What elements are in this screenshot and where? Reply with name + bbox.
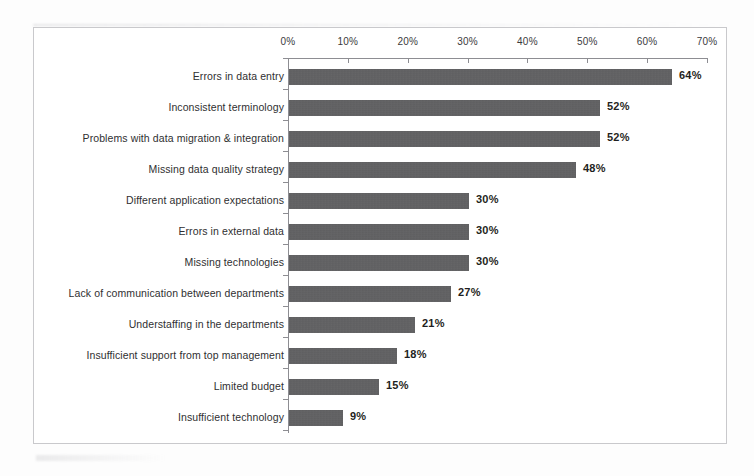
x-axis-tick-label: 40%	[517, 36, 538, 47]
bar	[289, 69, 672, 85]
bar	[289, 131, 600, 147]
bar-row: Limited budget15%	[0, 376, 754, 407]
x-axis-tick	[468, 58, 469, 63]
bar-row: Errors in external data30%	[0, 221, 754, 252]
bar-row: Insufficient support from top management…	[0, 345, 754, 376]
bar-value-label: 30%	[476, 255, 499, 267]
category-label: Insufficient support from top management	[86, 349, 284, 361]
x-axis-tick	[707, 58, 708, 63]
bar-value-label: 15%	[386, 379, 409, 391]
bar-row: Lack of communication between department…	[0, 283, 754, 314]
bar	[289, 100, 600, 116]
category-label: Inconsistent terminology	[168, 101, 284, 113]
x-axis-tick	[587, 58, 588, 63]
y-axis-tick	[283, 58, 288, 59]
bar-value-label: 21%	[422, 317, 445, 329]
x-axis-tick-label: 20%	[397, 36, 418, 47]
x-axis-tick-label: 0%	[281, 36, 296, 47]
x-axis-tick-label: 60%	[637, 36, 658, 47]
category-label: Insufficient technology	[178, 411, 284, 423]
bar-value-label: 52%	[607, 100, 630, 112]
bar	[289, 224, 469, 240]
category-label: Problems with data migration & integrati…	[83, 132, 284, 144]
x-axis-tick	[408, 58, 409, 63]
bar	[289, 193, 469, 209]
bar-row: Problems with data migration & integrati…	[0, 128, 754, 159]
bar-chart: 0%10%20%30%40%50%60%70% Errors in data e…	[0, 0, 754, 476]
x-axis-tick-label: 70%	[697, 36, 718, 47]
bar	[289, 286, 451, 302]
category-label: Different application expectations	[126, 194, 284, 206]
bar-row: Missing technologies30%	[0, 252, 754, 283]
category-label: Limited budget	[214, 380, 284, 392]
category-label: Missing technologies	[185, 256, 284, 268]
x-axis-tick	[527, 58, 528, 63]
bar-value-label: 30%	[476, 193, 499, 205]
bar-row: Errors in data entry64%	[0, 66, 754, 97]
bar	[289, 348, 397, 364]
bar	[289, 317, 415, 333]
bar	[289, 379, 379, 395]
x-axis-tick-label: 50%	[577, 36, 598, 47]
category-label: Errors in external data	[178, 225, 284, 237]
bar	[289, 410, 343, 426]
scan-artifact-bottom	[36, 455, 166, 461]
category-label: Errors in data entry	[193, 70, 284, 82]
bar	[289, 162, 576, 178]
bar-row: Insufficient technology9%	[0, 407, 754, 438]
bar-row: Inconsistent terminology52%	[0, 97, 754, 128]
scanned-page: 0%10%20%30%40%50%60%70% Errors in data e…	[0, 0, 754, 476]
category-label: Lack of communication between department…	[69, 287, 284, 299]
bar-row: Missing data quality strategy48%	[0, 159, 754, 190]
x-axis-tick	[348, 58, 349, 63]
category-label: Missing data quality strategy	[149, 163, 284, 175]
x-axis-tick-label: 30%	[457, 36, 478, 47]
x-axis-line	[288, 58, 707, 59]
x-axis-tick-label: 10%	[338, 36, 359, 47]
bar	[289, 255, 469, 271]
bar-value-label: 9%	[350, 410, 366, 422]
bar-value-label: 27%	[458, 286, 481, 298]
x-axis-tick	[288, 58, 289, 63]
bar-row: Understaffing in the departments21%	[0, 314, 754, 345]
x-axis-tick	[647, 58, 648, 63]
bar-value-label: 64%	[679, 69, 702, 81]
category-label: Understaffing in the departments	[129, 318, 284, 330]
bar-row: Different application expectations30%	[0, 190, 754, 221]
bar-value-label: 48%	[583, 162, 606, 174]
bar-value-label: 52%	[607, 131, 630, 143]
bar-value-label: 18%	[404, 348, 427, 360]
bar-value-label: 30%	[476, 224, 499, 236]
